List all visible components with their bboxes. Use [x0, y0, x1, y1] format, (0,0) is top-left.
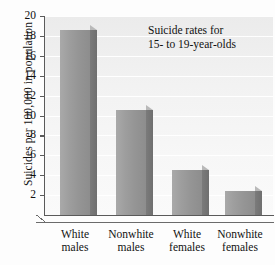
bar-top-face: [90, 25, 97, 30]
bar-top-face: [146, 105, 153, 110]
y-tick-label: 20: [2, 10, 36, 22]
bar-top-face: [255, 186, 262, 191]
y-tick-label: 16: [2, 50, 36, 62]
x-axis-label-line: Nonwhite: [203, 228, 275, 241]
bar-front-face: [225, 191, 255, 215]
bar-side-face: [255, 191, 262, 215]
axis-floor-front: [36, 222, 274, 223]
y-tick-label: 8: [2, 129, 36, 141]
bar-front-face: [172, 170, 202, 215]
chart-figure: Suicides per 100,000 in population 24681…: [0, 0, 275, 265]
annotation-line-1: Suicide rates for: [148, 23, 236, 37]
y-tick-label: 18: [2, 30, 36, 42]
y-tick-label: 12: [2, 90, 36, 102]
y-tick-label: 4: [2, 169, 36, 181]
bar-front-face: [116, 110, 146, 215]
x-axis-line: [45, 215, 274, 216]
axis-floor-left: [36, 215, 46, 223]
bar: [225, 191, 255, 215]
annotation-line-2: 15- to 19-year-olds: [148, 37, 236, 51]
bar: [60, 30, 90, 215]
y-tick-label: 10: [2, 110, 36, 122]
y-tick-label: 14: [2, 70, 36, 82]
bar-front-face: [60, 30, 90, 215]
bar-top-face: [202, 165, 209, 170]
bar-side-face: [202, 170, 209, 215]
bar-side-face: [90, 30, 97, 215]
x-axis-label-line: females: [203, 241, 275, 254]
x-axis-label: Nonwhitefemales: [203, 228, 275, 254]
gridline: [45, 16, 273, 17]
bar: [116, 110, 146, 215]
bar: [172, 170, 202, 215]
chart-annotation: Suicide rates for 15- to 19-year-olds: [148, 23, 236, 51]
bar-side-face: [146, 110, 153, 215]
y-tick-label: 6: [2, 149, 36, 161]
y-tick-label: 2: [2, 189, 36, 201]
